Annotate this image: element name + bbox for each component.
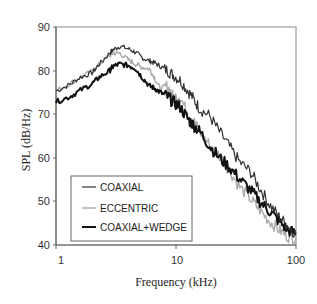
y-tick-label: 80 <box>38 65 50 77</box>
y-axis-title: SPL (dB/Hz) <box>19 109 33 172</box>
y-tick-label: 70 <box>38 108 50 120</box>
legend-label: COAXIAL <box>100 182 144 193</box>
x-axis: 1 10 100 <box>56 245 305 266</box>
spl-frequency-chart: 90 80 70 60 50 40 1 10 100 Frequency (kH… <box>0 0 317 304</box>
x-tick-label: 10 <box>171 254 183 266</box>
x-tick-label: 1 <box>58 254 64 266</box>
legend-label: ECCENTRIC <box>100 203 158 214</box>
legend-label: COAXIAL+WEDGE <box>100 222 187 233</box>
y-tick-label: 50 <box>38 195 50 207</box>
legend: COAXIAL ECCENTRIC COAXIAL+WEDGE <box>71 176 192 241</box>
x-tick-label: 100 <box>287 254 305 266</box>
y-tick-label: 60 <box>38 152 50 164</box>
y-tick-label: 40 <box>38 239 50 251</box>
y-axis: 90 80 70 60 50 40 <box>38 21 56 251</box>
y-tick-label: 90 <box>38 21 50 33</box>
x-axis-title: Frequency (kHz) <box>135 275 217 289</box>
